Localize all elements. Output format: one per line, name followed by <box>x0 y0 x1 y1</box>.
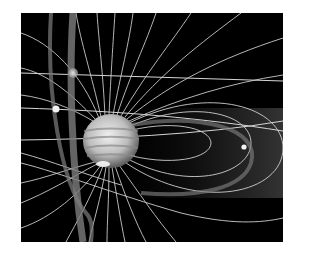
moon-right <box>241 144 246 149</box>
illustration-svg <box>21 13 283 242</box>
aurora-glow <box>96 161 110 167</box>
magnetosphere-illustration <box>21 13 283 242</box>
moon-left <box>53 106 60 113</box>
field-lines-north <box>21 13 283 121</box>
moon-upper <box>68 68 78 78</box>
jupiter-planet <box>83 114 139 168</box>
